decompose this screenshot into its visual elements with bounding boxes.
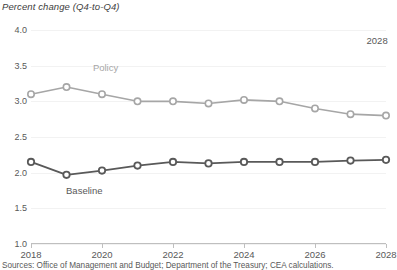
- series-layer: [31, 30, 386, 244]
- x-axis-tick-label: 2026: [304, 249, 325, 260]
- data-point-marker: [241, 97, 247, 103]
- data-point-marker: [312, 105, 318, 111]
- data-point-marker: [383, 157, 389, 163]
- x-axis-tick-mark: [315, 244, 316, 248]
- data-point-marker: [170, 98, 176, 104]
- data-point-marker: [28, 159, 34, 165]
- x-axis-tick-label: 2020: [91, 249, 112, 260]
- chart-axis-title: Percent change (Q4-to-Q4): [2, 1, 120, 12]
- data-point-marker: [347, 111, 353, 117]
- data-point-marker: [99, 91, 105, 97]
- x-axis-tick-mark: [31, 244, 32, 248]
- series-label-baseline: Baseline: [66, 184, 102, 195]
- x-axis-tick-label: 2024: [233, 249, 254, 260]
- x-axis-tick-mark: [244, 244, 245, 248]
- data-point-marker: [170, 159, 176, 165]
- data-point-marker: [383, 112, 389, 118]
- data-point-marker: [241, 159, 247, 165]
- plot-area: 1.01.52.02.53.03.54.02018202020222024202…: [31, 30, 386, 244]
- x-axis-tick-mark: [102, 244, 103, 248]
- data-point-marker: [276, 98, 282, 104]
- y-axis-tick-label: 1.5: [14, 203, 27, 213]
- y-axis-tick-label: 3.0: [14, 96, 27, 106]
- data-point-marker: [347, 157, 353, 163]
- y-axis-tick-label: 3.5: [14, 61, 27, 71]
- data-point-marker: [312, 159, 318, 165]
- source-note: Sources: Office of Management and Budget…: [2, 261, 334, 270]
- data-point-marker: [205, 160, 211, 166]
- data-point-marker: [134, 162, 140, 168]
- data-point-marker: [99, 167, 105, 173]
- data-point-marker: [63, 172, 69, 178]
- x-axis-tick-mark: [386, 244, 387, 248]
- gridline-y: [31, 244, 386, 245]
- series-label-policy: Policy: [93, 62, 118, 73]
- x-axis-tick-label: 2022: [162, 249, 183, 260]
- data-point-marker: [134, 98, 140, 104]
- x-axis-tick-label: 2018: [20, 249, 41, 260]
- y-axis-tick-label: 2.5: [14, 132, 27, 142]
- data-point-marker: [205, 100, 211, 106]
- x-axis-tick-mark: [173, 244, 174, 248]
- chart-annotation: 2028: [367, 34, 388, 45]
- data-point-marker: [276, 159, 282, 165]
- x-axis-tick-label: 2028: [375, 249, 396, 260]
- data-point-marker: [63, 84, 69, 90]
- y-axis-tick-label: 4.0: [14, 25, 27, 35]
- y-axis-tick-label: 1.0: [14, 239, 27, 249]
- y-axis-tick-label: 2.0: [14, 168, 27, 178]
- data-point-marker: [28, 91, 34, 97]
